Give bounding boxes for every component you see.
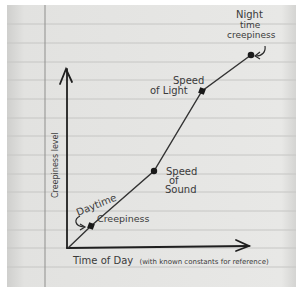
label-night-2: time bbox=[240, 20, 261, 30]
point-speed-of-sound bbox=[151, 168, 157, 174]
point-night bbox=[248, 52, 255, 59]
label-night-3: creepiness bbox=[227, 30, 276, 40]
label-daytime-2: Creepiness bbox=[97, 213, 150, 224]
label-sound-3: Sound bbox=[165, 184, 197, 195]
label-night-1: Night bbox=[236, 9, 263, 20]
label-light-2: of Light bbox=[150, 85, 188, 96]
x-axis-label-main: Time of Day bbox=[72, 255, 133, 266]
notebook-chart: Daytime Creepiness Speed of Sound Speed … bbox=[0, 0, 303, 293]
y-axis-label: Creepiness level bbox=[51, 132, 60, 198]
x-axis-label-note: (with known constants for reference) bbox=[139, 258, 269, 266]
